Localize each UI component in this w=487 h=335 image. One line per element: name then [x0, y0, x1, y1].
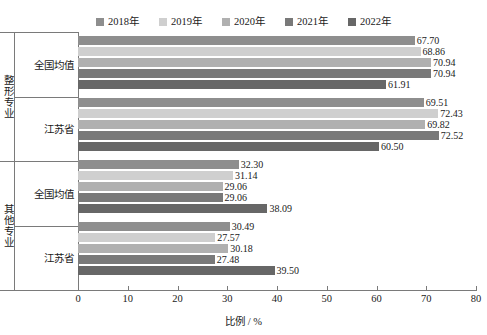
- category-axis: 全国均值江苏省全国均值江苏省整形专业其他专业: [0, 32, 78, 290]
- bar-row: 70.94: [78, 69, 476, 78]
- bar-value-label: 39.50: [275, 266, 300, 276]
- bar: [78, 36, 415, 45]
- legend-item: 2020年: [222, 17, 265, 28]
- bar: [78, 193, 223, 202]
- bar-value-label: 27.57: [215, 233, 240, 243]
- bar-row: 29.06: [78, 182, 476, 191]
- bar-value-label: 61.91: [386, 80, 411, 90]
- bar-row: 72.52: [78, 131, 476, 140]
- x-axis-tick: [227, 286, 228, 290]
- x-axis-title: 比例 / %: [0, 313, 487, 328]
- bar-value-label: 69.82: [425, 120, 450, 130]
- legend-swatch-icon: [348, 18, 356, 26]
- bar: [78, 58, 431, 67]
- x-axis-tick-label: 40: [272, 293, 283, 304]
- bar: [78, 244, 228, 253]
- legend-label: 2019年: [171, 17, 202, 28]
- category-label-inner-text: 江苏省: [44, 250, 78, 265]
- bar: [78, 47, 421, 56]
- x-axis-tick-label: 10: [123, 293, 134, 304]
- bar-value-label: 70.94: [431, 69, 456, 79]
- bar-group: 67.7068.8670.9470.9461.91: [78, 36, 476, 91]
- bar-row: 61.91: [78, 80, 476, 89]
- legend-swatch-icon: [285, 18, 293, 26]
- x-axis-tick: [178, 286, 179, 290]
- x-axis-tick: [78, 286, 79, 290]
- x-axis-line: [78, 290, 477, 291]
- legend-label: 2021年: [297, 17, 328, 28]
- category-edge: [0, 32, 78, 33]
- bar-row: 69.51: [78, 98, 476, 107]
- bar-value-label: 30.18: [228, 244, 253, 254]
- x-axis-tick-label: 80: [471, 293, 482, 304]
- bar: [78, 109, 438, 118]
- x-axis-tick: [476, 286, 477, 290]
- bar-value-label: 29.06: [223, 182, 248, 192]
- bar-value-label: 31.14: [233, 171, 258, 181]
- bar-row: 31.14: [78, 171, 476, 180]
- chart-legend: 2018年2019年2020年2021年2022年: [0, 14, 487, 30]
- bar-row: 39.50: [78, 266, 476, 275]
- bar-group: 69.5172.4369.8272.5260.50: [78, 98, 476, 153]
- legend-label: 2018年: [108, 17, 139, 28]
- bar-value-label: 72.52: [439, 131, 464, 141]
- bar-row: 70.94: [78, 58, 476, 67]
- bar: [78, 120, 425, 129]
- x-axis-tick: [426, 286, 427, 290]
- category-label-inner-text: 江苏省: [44, 121, 78, 136]
- bar-value-label: 32.30: [239, 160, 264, 170]
- legend-swatch-icon: [222, 18, 230, 26]
- bar-value-label: 27.48: [215, 255, 240, 265]
- x-axis-tick-label: 0: [75, 293, 80, 304]
- bar-row: 27.57: [78, 233, 476, 242]
- legend-item: 2022年: [348, 17, 391, 28]
- bar: [78, 142, 379, 151]
- bar-row: 32.30: [78, 160, 476, 169]
- bar: [78, 171, 233, 180]
- x-axis-tick: [327, 286, 328, 290]
- legend-item: 2021年: [285, 17, 328, 28]
- bar-value-label: 60.50: [379, 142, 404, 152]
- legend-label: 2022年: [360, 17, 391, 28]
- bar: [78, 222, 230, 231]
- bar-value-label: 38.09: [267, 204, 292, 214]
- bar-value-label: 29.06: [223, 193, 248, 203]
- category-label-inner-text: 全国均值: [34, 186, 78, 201]
- bar-value-label: 67.70: [415, 36, 440, 46]
- bar-row: 60.50: [78, 142, 476, 151]
- category-edge: [0, 290, 78, 291]
- bar: [78, 98, 424, 107]
- bar: [78, 182, 223, 191]
- x-axis-tick-label: 60: [371, 293, 382, 304]
- category-separator: [0, 161, 78, 162]
- bar: [78, 204, 267, 213]
- bar-row: 67.70: [78, 36, 476, 45]
- bar: [78, 69, 431, 78]
- legend-swatch-icon: [159, 18, 167, 26]
- category-label-inner-text: 全国均值: [34, 57, 78, 72]
- bar-row: 38.09: [78, 204, 476, 213]
- bar: [78, 266, 275, 275]
- category-axis-divider: [14, 32, 15, 290]
- bar-value-label: 72.43: [438, 109, 463, 119]
- bar: [78, 255, 215, 264]
- legend-label: 2020年: [234, 17, 265, 28]
- bar-row: 30.49: [78, 222, 476, 231]
- category-separator: [14, 97, 78, 98]
- bar: [78, 160, 239, 169]
- x-axis-tick: [128, 286, 129, 290]
- bar-value-label: 30.49: [230, 222, 255, 232]
- bar-row: 30.18: [78, 244, 476, 253]
- x-axis-tick-label: 70: [421, 293, 432, 304]
- x-axis-tick: [377, 286, 378, 290]
- category-separator: [14, 226, 78, 227]
- bar-value-label: 70.94: [431, 58, 456, 68]
- bar-value-label: 69.51: [424, 98, 449, 108]
- bar-row: 69.82: [78, 120, 476, 129]
- bar-row: 72.43: [78, 109, 476, 118]
- bar: [78, 233, 215, 242]
- bar-row: 68.86: [78, 47, 476, 56]
- legend-item: 2019年: [159, 17, 202, 28]
- legend-item: 2018年: [96, 17, 139, 28]
- bar-group: 32.3031.1429.0629.0638.09: [78, 160, 476, 215]
